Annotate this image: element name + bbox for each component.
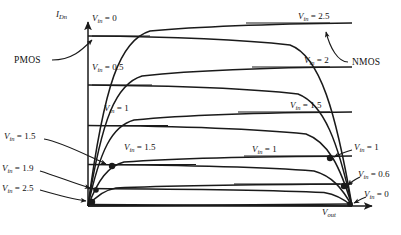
curve-label-vin-05: Vin = 0.5	[92, 63, 123, 72]
operating-point-vin-06	[341, 183, 347, 189]
leader-vin-19	[40, 171, 90, 188]
curve-label-vin-06: Vin = 0.6	[358, 170, 389, 179]
iv-characteristic-figure: IDn Vout PMOS NMOS Vin = 0 Vin = 0.5 Vin…	[0, 0, 401, 235]
curve-label-vin-1: Vin = 1	[104, 104, 129, 113]
curve-canvas	[0, 0, 401, 235]
curve-label-vin-15-mid: Vin = 1.5	[124, 143, 155, 152]
curve-label-vin-19: Vin = 1.9	[2, 164, 33, 173]
curve-label-vin-25-top: Vin = 2.5	[298, 12, 329, 21]
nmos-label: NMOS	[352, 57, 380, 67]
nmos-leader	[326, 32, 348, 62]
leader-vin-25-left	[40, 190, 86, 201]
curve-label-vin-25-left: Vin = 2.5	[2, 184, 33, 193]
pmos-label: PMOS	[14, 55, 41, 65]
curve-label-vin-1-mid: Vin = 1	[252, 145, 277, 154]
pmos-curve-vin-2	[88, 189, 352, 207]
pmos-leader	[52, 40, 92, 60]
nmos-curve-family	[88, 23, 352, 206]
pmos-curve-vin-1	[88, 126, 352, 207]
operating-point-vin-19	[93, 187, 99, 193]
x-axis-label: Vout	[322, 207, 336, 217]
operating-point-vin-15	[109, 163, 115, 169]
curve-label-vin-0: Vin = 0	[92, 14, 117, 23]
curve-label-vin-2: Vin = 2	[304, 56, 329, 65]
operating-point-vin-25	[89, 199, 95, 205]
curve-label-vin-0-right: Vin = 0	[364, 190, 389, 199]
operating-point-markers	[89, 155, 353, 207]
y-axis-label: IDn	[56, 9, 67, 19]
operating-point-vin-0	[347, 201, 353, 207]
curve-label-vin-15-right: Vin = 1.5	[290, 101, 321, 110]
nmos-curve-vin-1	[88, 156, 352, 206]
curve-label-vin-15-left: Vin = 1.5	[4, 132, 35, 141]
nmos-curve-vin-05	[88, 184, 352, 206]
curve-label-vin-1-right: Vin = 1	[354, 143, 379, 152]
